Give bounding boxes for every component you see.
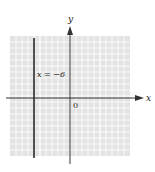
x-axis-arrow-icon [135,95,144,101]
x-axis-label: x [146,93,151,103]
line-equation-label: x = −6 [37,70,65,79]
y-axis-label: y [67,14,74,24]
y-axis-arrow-icon [67,26,73,35]
coordinate-plane: x y 0 x = −6 [0,0,155,172]
origin-label: 0 [73,101,78,110]
